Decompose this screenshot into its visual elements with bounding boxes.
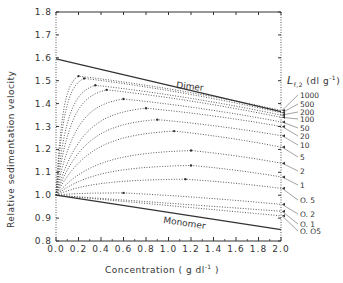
curve-5 xyxy=(56,131,281,195)
x-tick-label: 0.4 xyxy=(92,244,109,254)
x-tick-label: 0.6 xyxy=(115,244,132,254)
legend-leader-0.2 xyxy=(282,204,298,214)
y-tick-label: 0.8 xyxy=(35,236,52,246)
peak-marker xyxy=(190,164,192,166)
legend-leader-0.1 xyxy=(282,211,298,224)
peak-marker xyxy=(145,107,147,109)
legend-leader-0.5 xyxy=(282,188,298,200)
curve-2 xyxy=(56,151,281,196)
x-axis-title: Concentration ( g dl-1 ) xyxy=(105,263,219,275)
legend-label-0.05: O. O5 xyxy=(300,227,321,236)
peak-marker xyxy=(173,130,175,132)
legend-leader-10 xyxy=(282,136,298,145)
dimer-line xyxy=(56,59,281,112)
legend: 1000500200100502010521O. 5O. 2O. 1O. O5 xyxy=(282,91,321,236)
x-tick-label: 1.8 xyxy=(250,244,267,254)
x-tick-label: 2.0 xyxy=(272,244,289,254)
peak-marker xyxy=(83,77,85,79)
y-tick-label: 0.9 xyxy=(35,213,52,223)
legend-label-100: 100 xyxy=(300,115,315,124)
x-tick-label: 1.4 xyxy=(205,244,222,254)
arrow-icon xyxy=(282,120,285,123)
peak-marker xyxy=(122,98,124,100)
y-tick-label: 1.0 xyxy=(35,190,52,200)
legend-leader-1 xyxy=(282,177,298,185)
legend-label-0.5: O. 5 xyxy=(300,196,315,205)
boundary-lines xyxy=(56,59,281,230)
peak-marker xyxy=(122,192,124,194)
y-tick-label: 1.8 xyxy=(35,7,52,17)
legend-title: Lf,2 (dl g-1) xyxy=(287,74,340,88)
legend-label-2: 2 xyxy=(300,167,305,176)
curve-500 xyxy=(56,78,281,195)
curve-200 xyxy=(56,85,281,195)
chart-svg: 0.00.20.40.60.81.01.21.41.61.82.00.80.91… xyxy=(0,0,343,283)
curve-20 xyxy=(56,108,281,195)
x-tick-label: 0.8 xyxy=(137,244,154,254)
curve-1 xyxy=(56,165,281,195)
y-tick-label: 1.6 xyxy=(35,53,52,63)
legend-label-1000: 1000 xyxy=(300,91,319,100)
y-tick-label: 1.4 xyxy=(35,99,52,109)
curves xyxy=(56,75,281,216)
y-tick-label: 1.2 xyxy=(35,144,52,154)
sedimentation-chart: 0.00.20.40.60.81.01.21.41.61.82.00.80.91… xyxy=(0,0,343,283)
y-tick-label: 1.3 xyxy=(35,122,52,132)
legend-label-20: 20 xyxy=(300,132,310,141)
x-tick-label: 1.6 xyxy=(227,244,244,254)
legend-label-5: 5 xyxy=(300,153,305,162)
legend-label-1: 1 xyxy=(300,181,305,190)
y-tick-label: 1.7 xyxy=(35,30,52,40)
x-tick-label: 1.0 xyxy=(160,244,177,254)
curve-1000 xyxy=(56,76,281,195)
x-tick-label: 0.2 xyxy=(70,244,87,254)
curve-0.1 xyxy=(56,195,281,211)
peak-marker xyxy=(105,89,107,91)
axes: 0.00.20.40.60.81.01.21.41.61.82.00.80.91… xyxy=(35,7,290,254)
curve-50 xyxy=(56,99,281,195)
peak-marker xyxy=(94,84,96,86)
legend-label-0.2: O. 2 xyxy=(300,210,315,219)
x-tick-label: 1.2 xyxy=(182,244,199,254)
legend-leader-0.05 xyxy=(282,216,298,231)
legend-leader-5 xyxy=(282,147,298,157)
arrow-icon xyxy=(282,116,285,119)
peak-marker xyxy=(156,118,158,120)
peak-marker xyxy=(190,149,192,151)
y-tick-label: 1.5 xyxy=(35,76,52,86)
legend-label-10: 10 xyxy=(300,141,310,150)
peak-marker xyxy=(184,178,186,180)
y-tick-label: 1.1 xyxy=(35,167,52,177)
y-axis-title: Relative sedimentation velocity xyxy=(6,70,16,228)
peak-marker xyxy=(77,75,79,77)
